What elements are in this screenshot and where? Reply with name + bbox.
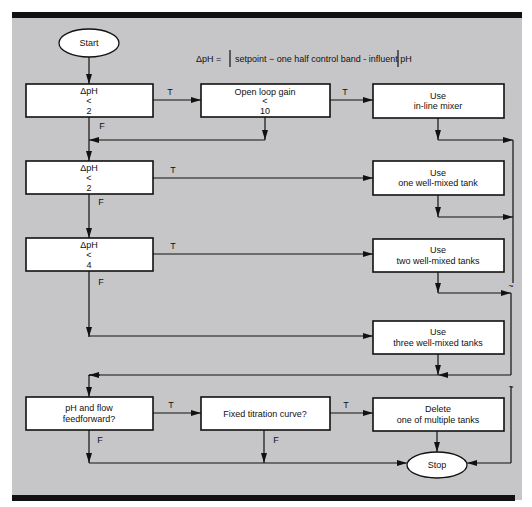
flowchart: ΔpH = setpoint − one half control band -… [0, 0, 532, 507]
break-mark-2: ~ [508, 382, 513, 392]
decision-d3: ΔpH < 2 [26, 161, 153, 194]
d5-line-1: pH and flow [65, 403, 113, 413]
a1-line-2: in-line mixer [414, 101, 463, 111]
d6-line-1: Fixed titration curve? [223, 409, 307, 419]
a2-line-2: one well-mixed tank [398, 178, 478, 188]
a5-line-2: one of multiple tanks [397, 415, 480, 425]
d5-line-2: feedforward? [63, 414, 116, 424]
a2-line-1: Use [430, 168, 446, 178]
a5-line-1: Delete [425, 404, 451, 414]
label-d1-true: T [167, 87, 173, 97]
decision-d5: pH and flow feedforward? [26, 397, 153, 430]
decision-d2: Open loop gain < 10 [201, 84, 330, 117]
stop-terminal: Stop [407, 452, 467, 478]
d4-line-1: ΔpH [80, 240, 98, 250]
decision-d4: ΔpH < 4 [26, 238, 153, 271]
d1-line-2: < [86, 96, 91, 106]
a1-line-1: Use [430, 91, 446, 101]
label-d4-true: T [170, 241, 176, 251]
d4-line-2: < [86, 250, 91, 260]
label-d3-false: F [98, 197, 104, 207]
label-d1-false: F [99, 121, 105, 131]
start-label: Start [79, 38, 99, 48]
label-d6-true: T [343, 400, 349, 410]
d4-line-3: 4 [86, 260, 91, 270]
d1-line-3: 2 [86, 106, 91, 116]
d1-line-1: ΔpH [80, 86, 98, 96]
d3-line-3: 2 [86, 183, 91, 193]
label-d4-false: F [98, 277, 104, 287]
formula-rhs: setpoint − one half control band - influ… [235, 54, 412, 64]
action-a2: Use one well-mixed tank [373, 161, 504, 195]
action-a5: Delete one of multiple tanks [373, 398, 504, 431]
label-d6-false: F [273, 435, 279, 445]
decision-d6: Fixed titration curve? [201, 397, 330, 430]
start-terminal: Start [59, 29, 119, 57]
label-d5-false: F [97, 435, 103, 445]
d2-line-3: 10 [260, 106, 270, 116]
formula-lhs: ΔpH = [196, 54, 221, 64]
d3-line-2: < [86, 173, 91, 183]
a4-line-1: Use [430, 327, 446, 337]
delta-ph-formula: ΔpH = setpoint − one half control band -… [196, 50, 412, 67]
a3-line-1: Use [430, 245, 446, 255]
action-a1: Use in-line mixer [373, 84, 504, 118]
d3-line-1: ΔpH [80, 163, 98, 173]
label-d3-true: T [170, 165, 176, 175]
action-a3: Use two well-mixed tanks [373, 239, 504, 272]
stop-label: Stop [428, 460, 447, 470]
decision-d1: ΔpH < 2 [26, 84, 153, 117]
label-d2-true: T [342, 87, 348, 97]
label-d5-true: T [168, 400, 174, 410]
a4-line-2: three well-mixed tanks [393, 338, 483, 348]
a3-line-2: two well-mixed tanks [396, 256, 480, 266]
break-mark-1: ~ [508, 281, 513, 291]
action-a4: Use three well-mixed tanks [373, 321, 504, 354]
d2-line-2: < [262, 96, 267, 106]
